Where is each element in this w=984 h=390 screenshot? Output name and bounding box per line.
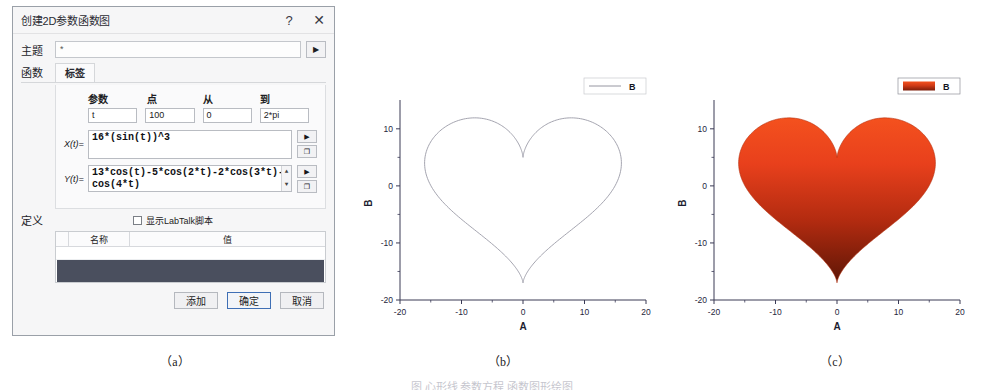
close-icon[interactable]: ✕ [304, 8, 334, 32]
dialog-titlebar: 创建2D参数函数图 ? ✕ [13, 7, 334, 34]
caption-c: （c） [790, 352, 880, 370]
x-tick-label: 20 [641, 307, 651, 317]
y-tick-label: 10 [698, 124, 708, 134]
x-tick-label: 0 [835, 307, 840, 317]
theme-row: 主题 * ▶ [21, 41, 326, 58]
x-copy-icon[interactable]: ❐ [297, 145, 317, 158]
x-tick-label: 10 [894, 307, 904, 317]
y-function-buttons: ▶ ❐ [297, 165, 317, 195]
y-run-icon[interactable]: ▶ [297, 165, 317, 178]
x-function-buttons: ▶ ❐ [297, 130, 317, 160]
dialog-title: 创建2D参数函数图 [21, 12, 274, 28]
caption-a: （a） [130, 352, 220, 370]
cancel-button[interactable]: 取消 [280, 292, 324, 309]
y-function-scrollbar[interactable]: ▲ ▼ [281, 166, 291, 191]
scroll-down-icon[interactable]: ▼ [285, 179, 289, 191]
figure-caption: 图 心形线 参数方程 函数图形绘图 [0, 378, 984, 390]
y-function-text: 13*cos(t)-5*cos(2*t)-2*cos(3*t)-cos(4*t) [92, 167, 284, 190]
theme-dropdown-icon[interactable]: ▶ [306, 41, 326, 58]
add-button[interactable]: 添加 [174, 292, 218, 309]
definition-table-header: 名称 值 [56, 232, 325, 247]
definition-table-corner [56, 232, 69, 246]
param-table-header: 参数 点 从 到 [88, 91, 317, 106]
y-function-input[interactable]: 13*cos(t)-5*cos(2*t)-2*cos(3*t)-cos(4*t)… [88, 165, 292, 192]
heart-outline-chart: -20-1001020-20-10010ABB [358, 72, 658, 334]
definition-table-row[interactable] [56, 247, 325, 260]
show-labtalk-script-label: 显示LabTalk脚本 [146, 214, 213, 227]
x-function-label: X(t)= [64, 130, 88, 149]
y-function-row: Y(t)= 13*cos(t)-5*cos(2*t)-2*cos(3*t)-co… [64, 165, 317, 195]
definition-table-selected-row[interactable] [57, 260, 324, 282]
header-to: 到 [260, 91, 317, 106]
heart-curve [425, 118, 622, 283]
heart-area [739, 118, 936, 283]
param-table-inputs: t 100 0 2*pi [88, 108, 317, 123]
x-axis-title: A [519, 321, 526, 332]
dialog-body: 主题 * ▶ 函数 标签 参数 点 从 到 t 100 0 2*pi [13, 34, 334, 309]
x-tick-label: 20 [955, 307, 965, 317]
create-2d-parametric-plot-dialog: 创建2D参数函数图 ? ✕ 主题 * ▶ 函数 标签 参数 点 从 到 t 10… [12, 6, 335, 336]
y-axis-title: B [363, 199, 374, 206]
y-tick-label: 0 [702, 181, 707, 191]
definition-header-name: 名称 [69, 232, 130, 246]
y-tick-label: -20 [695, 295, 708, 305]
header-parameter: 参数 [88, 91, 147, 106]
chart-b-svg: -20-1001020-20-10010ABB [358, 72, 658, 334]
definition-row: 定义 显示LabTalk脚本 [21, 212, 326, 228]
show-labtalk-script-checkbox[interactable]: 显示LabTalk脚本 [133, 214, 213, 227]
y-tick-label: -20 [381, 295, 394, 305]
theme-label: 主题 [21, 42, 55, 58]
x-tick-label: 0 [521, 307, 526, 317]
functions-section-label: 函数 [21, 64, 55, 82]
legend-label: B [943, 82, 950, 92]
definition-table[interactable]: 名称 值 [55, 231, 326, 283]
x-tick-label: 10 [580, 307, 590, 317]
y-tick-label: 0 [388, 181, 393, 191]
dialog-button-row: 添加 确定 取消 [21, 292, 326, 309]
x-tick-label: -10 [455, 307, 468, 317]
tab-bar: 函数 标签 [21, 64, 326, 83]
x-tick-label: -20 [394, 307, 407, 317]
checkbox-box[interactable] [133, 216, 142, 225]
x-run-icon[interactable]: ▶ [297, 130, 317, 143]
scroll-up-icon[interactable]: ▲ [285, 166, 289, 178]
ok-button[interactable]: 确定 [227, 292, 271, 309]
x-tick-label: -10 [769, 307, 782, 317]
y-tick-label: 10 [384, 124, 394, 134]
heart-filled-chart: -20-1001020-20-10010ABB [672, 72, 972, 334]
legend-swatch [903, 82, 935, 91]
to-input[interactable]: 2*pi [260, 108, 309, 123]
caption-b: （b） [458, 352, 548, 370]
y-copy-icon[interactable]: ❐ [297, 180, 317, 193]
x-function-row: X(t)= 16*(sin(t))^3 ▶ ❐ [64, 130, 317, 160]
function-panel: 参数 点 从 到 t 100 0 2*pi X(t)= 16*(sin(t))^… [55, 85, 326, 209]
parameter-input[interactable]: t [88, 108, 137, 123]
y-function-label: Y(t)= [64, 165, 88, 184]
chart-c-svg: -20-1001020-20-10010ABB [672, 72, 972, 334]
x-function-input[interactable]: 16*(sin(t))^3 [88, 130, 292, 159]
definition-label: 定义 [21, 212, 55, 228]
from-input[interactable]: 0 [203, 108, 252, 123]
x-axis-title: A [833, 321, 840, 332]
y-tick-label: -10 [381, 238, 394, 248]
y-tick-label: -10 [695, 238, 708, 248]
help-icon[interactable]: ? [274, 8, 304, 32]
header-points: 点 [147, 91, 204, 106]
definition-header-value: 值 [130, 232, 325, 246]
tab-label[interactable]: 标签 [55, 63, 95, 82]
theme-input[interactable]: * [55, 41, 301, 58]
y-axis-title: B [677, 199, 688, 206]
legend-label: B [629, 82, 636, 92]
header-from: 从 [203, 91, 260, 106]
points-input[interactable]: 100 [145, 108, 194, 123]
x-tick-label: -20 [708, 307, 721, 317]
